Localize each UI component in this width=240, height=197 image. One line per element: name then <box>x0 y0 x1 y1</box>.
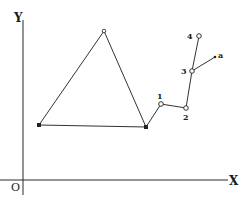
branch-a-label: a <box>218 50 223 60</box>
node-1-label: 1 <box>157 91 163 101</box>
triangle-vertex-left <box>37 123 41 127</box>
node-a-end <box>214 56 217 59</box>
node-4-label: 4 <box>187 31 193 41</box>
node-2 <box>184 106 189 111</box>
branch-a <box>192 57 215 71</box>
x-axis-label: X <box>229 174 239 188</box>
node-3-label: 3 <box>181 66 187 76</box>
y-axis-label: Y <box>13 11 23 25</box>
triangle-vertex-apex <box>102 29 106 33</box>
triangle <box>39 31 146 127</box>
chain-path <box>146 36 199 127</box>
node-3 <box>190 69 195 74</box>
node-2-label: 2 <box>183 112 189 122</box>
geometry-diagram: Y X O 1 2 3 4 a <box>0 0 240 197</box>
origin-label: O <box>11 181 20 194</box>
node-1 <box>159 102 164 107</box>
node-4 <box>197 34 202 39</box>
